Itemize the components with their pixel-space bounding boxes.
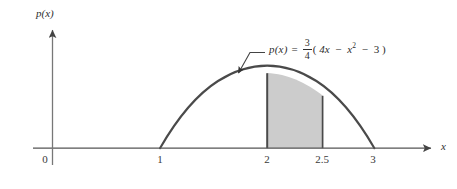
fraction-numerator: 3	[304, 38, 311, 49]
shaded-area-region	[267, 73, 322, 148]
equation-expression: ( 4x − x2 − 3 )	[313, 44, 386, 55]
function-equation-label: p(x) = 3 4 ( 4x − x2 − 3 )	[269, 38, 386, 61]
x-tick-label-2: 2	[257, 154, 277, 165]
x-tick-label-2-5: 2.5	[309, 154, 335, 165]
expression-term-1: 4x	[319, 43, 329, 55]
equation-equals-sign: =	[292, 44, 298, 55]
equation-function-name: p(x)	[269, 44, 288, 55]
y-axis-label: p(x)	[36, 8, 54, 19]
x-tick-label-1: 1	[150, 154, 170, 165]
expression-term-3: 3	[374, 43, 380, 55]
fraction-denominator: 4	[304, 50, 311, 61]
x-axis-label: x	[441, 141, 446, 152]
expression-minus-2: −	[362, 43, 368, 55]
expression-minus-1: −	[335, 43, 341, 55]
figure-container: p(x) x 0 1 2 2.5 3 p(x) = 3 4 ( 4x − x2 …	[0, 0, 457, 189]
equation-fraction-three-fourths: 3 4	[303, 38, 312, 61]
x-tick-label-0: 0	[35, 154, 55, 165]
expression-open-paren: (	[313, 43, 317, 55]
expression-term-2-exponent: 2	[352, 41, 356, 50]
x-tick-label-3: 3	[363, 154, 383, 165]
expression-close-paren: )	[382, 43, 386, 55]
plot-canvas	[0, 0, 457, 189]
